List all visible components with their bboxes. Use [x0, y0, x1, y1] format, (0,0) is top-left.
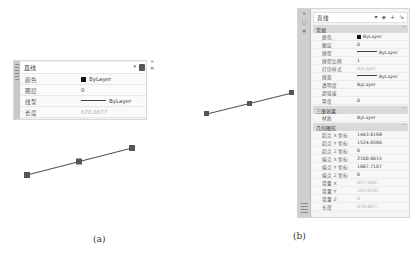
property-value[interactable]: ByLayer: [357, 82, 376, 87]
property-row-length: 长度676.8677: [313, 203, 408, 211]
property-row-end-y[interactable]: 端点 Y 坐标1687.7107: [313, 163, 408, 171]
chevron-up-icon[interactable]: ˄: [403, 123, 406, 129]
property-row-linetype[interactable]: 线型 ByLayer: [21, 96, 146, 107]
value-text: ByLayer: [89, 76, 111, 82]
property-value[interactable]: 0: [357, 148, 360, 153]
grip-start-icon[interactable]: [24, 172, 30, 178]
property-label: 长度: [322, 204, 332, 210]
close-icon[interactable]: ×: [150, 58, 156, 65]
grip-mid-icon[interactable]: [76, 159, 82, 165]
property-label: 端点 Y 坐标: [322, 164, 348, 170]
property-value: 162.6541: [357, 188, 379, 193]
object-type-label: 直线: [24, 63, 36, 72]
property-value[interactable]: 1687.7107: [357, 164, 382, 169]
section-general[interactable]: 常规 ˄: [313, 25, 408, 33]
property-value[interactable]: 2100.6615: [357, 156, 382, 161]
property-row-color[interactable]: 颜色ByLayer: [313, 33, 408, 41]
property-row-start-x[interactable]: 起点 X 坐标1443.6168: [313, 131, 408, 139]
property-label: 颜色: [322, 34, 332, 40]
property-label: 图层: [25, 87, 37, 95]
properties-panel-b: × ▢ ≡ 直线 ▾ ◈ + ⇘ 常规 ˄ 颜色ByLayer 图层0 线型By…: [297, 8, 410, 218]
chevron-down-icon[interactable]: ▾: [133, 63, 136, 69]
menu-icon[interactable]: ≡: [150, 65, 156, 72]
property-value: 678.8677: [81, 109, 107, 115]
grip-start-icon[interactable]: [204, 111, 209, 116]
property-value[interactable]: 0: [357, 42, 360, 47]
object-type-selector[interactable]: 直线 ▾ ◈ + ⇘: [313, 12, 408, 23]
property-row-linetype-scale[interactable]: 线型比例1: [313, 57, 408, 65]
property-value[interactable]: ByLayer: [357, 74, 398, 79]
property-label: 线宽: [322, 74, 332, 80]
autohide-icon[interactable]: ▢: [298, 18, 310, 27]
selected-line-a[interactable]: [24, 145, 135, 178]
property-label: 线型比例: [322, 58, 342, 64]
property-row-layer[interactable]: 图层0: [313, 41, 408, 49]
linetype-preview: [81, 100, 106, 101]
property-label: 增量 Z: [322, 196, 337, 202]
property-value[interactable]: 0: [357, 172, 360, 177]
property-label: 端点 X 坐标: [322, 156, 348, 162]
caption-a: (a): [93, 234, 105, 244]
property-label: 起点 Y 坐标: [322, 140, 348, 146]
property-row-start-z[interactable]: 起点 Z 坐标0: [313, 147, 408, 155]
section-label: 三维效果: [316, 107, 336, 114]
panel-title-strip[interactable]: × ▢ ≡: [298, 9, 311, 217]
property-label: 起点 X 坐标: [322, 132, 348, 138]
color-swatch: [81, 77, 86, 82]
color-swatch: [357, 35, 361, 39]
property-value[interactable]: ByLayer: [81, 76, 111, 82]
property-label: 线型: [25, 98, 37, 106]
close-icon[interactable]: ×: [298, 9, 310, 18]
property-row-color[interactable]: 颜色 ByLayer: [21, 74, 146, 85]
property-row-thickness[interactable]: 厚度0: [313, 97, 408, 105]
property-value[interactable]: ByLayer: [357, 34, 382, 39]
property-value[interactable]: ByLayer: [357, 50, 398, 55]
object-type-selector[interactable]: 直线 ▾: [21, 62, 146, 74]
property-row-end-x[interactable]: 端点 X 坐标2100.6615: [313, 155, 408, 163]
property-row-lineweight[interactable]: 线宽ByLayer: [313, 73, 408, 81]
properties-panel-a: 直线 ▾ 颜色 ByLayer 图层 0 线型 ByLayer 长度 678.8…: [13, 60, 147, 120]
property-label: 增量 Y: [322, 188, 336, 194]
section-label: 几何图形: [316, 124, 336, 131]
section-3d-effects[interactable]: 三维效果 ˅: [313, 106, 408, 114]
property-label: 长度: [25, 109, 37, 117]
property-label: 颜色: [25, 76, 37, 84]
property-row-transparency[interactable]: 透明度ByLayer: [313, 81, 408, 89]
chevron-up-icon[interactable]: ˄: [403, 25, 406, 31]
chevron-down-icon[interactable]: ˅: [403, 106, 406, 112]
property-value[interactable]: ByLayer: [357, 115, 376, 120]
selected-line-b[interactable]: [204, 90, 294, 116]
toolbar-icons[interactable]: ▾ ◈ + ⇘: [375, 13, 405, 20]
panel-a-side-buttons: × ≡: [150, 58, 156, 88]
property-value[interactable]: 0: [357, 98, 360, 103]
drag-grip[interactable]: [301, 203, 308, 213]
grip-end-icon[interactable]: [129, 145, 135, 151]
property-label: 图层: [322, 42, 332, 48]
property-row-material[interactable]: 材质ByLayer: [313, 114, 408, 122]
property-value[interactable]: 1524.0566: [357, 140, 382, 145]
property-row-delta-y: 增量 Y162.6541: [313, 187, 408, 195]
property-value[interactable]: 0: [81, 87, 85, 93]
property-row-linetype[interactable]: 线型ByLayer: [313, 49, 408, 57]
drag-grip[interactable]: [14, 61, 20, 119]
section-label: 常规: [316, 26, 326, 33]
grip-mid-icon[interactable]: [247, 101, 252, 106]
property-value[interactable]: ByLayer: [81, 98, 131, 104]
property-row-plot-style: 打印样式ByLayer: [313, 65, 408, 73]
value-text: ByLayer: [109, 98, 131, 104]
property-label: 材质: [322, 115, 332, 121]
property-label: 厚度: [322, 98, 332, 104]
property-label: 线型: [322, 50, 332, 56]
section-geometry[interactable]: 几何图形 ˄: [313, 123, 408, 131]
property-value[interactable]: 1443.6168: [357, 132, 382, 137]
property-row-start-y[interactable]: 起点 Y 坐标1524.0566: [313, 139, 408, 147]
property-row-layer[interactable]: 图层 0: [21, 85, 146, 96]
menu-icon[interactable]: ≡: [298, 27, 310, 36]
grip-end-icon[interactable]: [289, 90, 294, 95]
quick-select-icon[interactable]: [139, 64, 145, 71]
property-row-end-z[interactable]: 端点 Z 坐标0: [313, 171, 408, 179]
lineweight-preview: [357, 75, 377, 76]
property-value[interactable]: 1: [357, 58, 360, 63]
property-label: 超链接: [322, 90, 337, 96]
property-row-hyperlink[interactable]: 超链接: [313, 89, 408, 97]
